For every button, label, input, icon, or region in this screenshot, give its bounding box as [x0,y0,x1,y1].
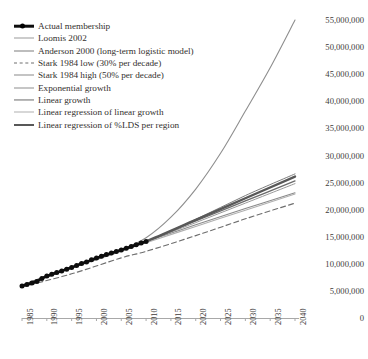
data-point-marker [99,254,104,259]
data-point-marker [59,268,64,273]
x-axis-tick-label: 2005 [125,308,134,325]
data-point-marker [79,261,84,266]
data-point-marker [139,241,144,246]
data-point-marker [39,276,44,281]
x-axis-tick-label: 2030 [249,308,258,325]
x-axis-tick-label: 2020 [199,308,208,325]
x-axis-tick-label: 2025 [224,308,233,325]
y-axis-tick-label: 25,000,000 [325,178,364,188]
data-point-marker [44,273,49,278]
y-axis-tick-label: 10,000,000 [325,259,364,269]
y-axis-tick-label: 5,000,000 [330,286,364,296]
y-axis-tick-label: 35,000,000 [325,123,364,133]
data-point-marker [89,257,94,262]
x-axis-tick-label: 2015 [174,308,183,325]
x-axis-tick-label: 2040 [299,308,308,325]
data-point-marker [54,270,59,275]
x-axis-tick-label: 2035 [274,308,283,325]
data-point-marker [29,281,34,286]
data-point-marker [124,246,129,251]
x-axis-tick-label: 2000 [100,308,109,325]
y-axis-tick-label: 0 [360,313,364,323]
y-axis-tick-label: 20,000,000 [325,205,364,215]
y-axis-tick-label: 50,000,000 [325,42,364,52]
y-axis-tick-label: 30,000,000 [325,151,364,161]
data-point-marker [134,242,139,247]
data-point-marker [69,265,74,270]
series-line [22,20,295,286]
data-point-marker [94,256,99,261]
data-point-marker [104,252,109,257]
x-axis-tick-label: 2010 [150,308,159,325]
data-point-marker [114,249,119,254]
data-point-marker [119,247,124,252]
data-point-marker [74,263,79,268]
x-axis-tick-label: 1995 [75,308,84,325]
data-point-marker [84,259,89,264]
data-point-marker [129,244,134,249]
data-point-marker [64,267,69,272]
series-line [22,203,295,287]
x-axis-tick-label: 1985 [26,308,35,325]
y-axis-tick-label: 45,000,000 [325,69,364,79]
x-axis-tick-label: 1990 [50,308,59,325]
y-axis-tick-label: 55,000,000 [325,15,364,25]
y-axis-tick-label: 40,000,000 [325,96,364,106]
data-point-marker [34,279,39,284]
data-point-marker [109,251,114,256]
data-point-marker [24,282,29,287]
plot-area [0,0,368,359]
chart-container: Actual membershipLoomis 2002Anderson 200… [0,0,368,359]
data-point-marker [144,239,149,244]
data-point-marker [49,272,54,277]
plot-svg [0,0,368,359]
data-point-marker [20,283,25,288]
y-axis-tick-label: 15,000,000 [325,232,364,242]
